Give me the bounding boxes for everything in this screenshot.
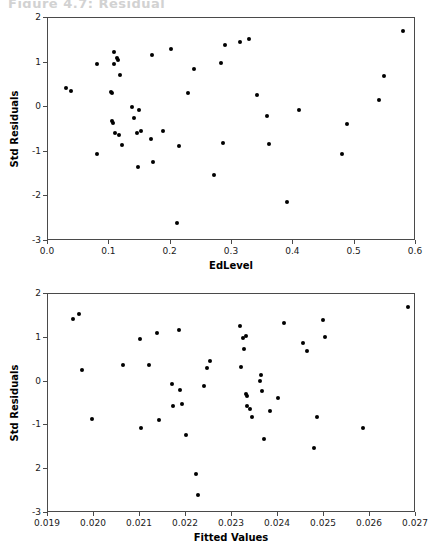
data-point [221, 141, 225, 145]
data-point [361, 426, 365, 430]
data-point [110, 91, 114, 95]
x-tick-top [108, 240, 109, 244]
data-point [305, 349, 309, 353]
data-point [247, 37, 251, 41]
x-tick-label-top: 0.0 [40, 246, 54, 256]
x-tick-label-top: 0.6 [408, 246, 422, 256]
data-point [377, 98, 381, 102]
data-point [117, 133, 121, 137]
plot-area-bottom [47, 293, 415, 512]
data-point [180, 402, 184, 406]
y-tick-label-bottom: -1 [17, 419, 41, 429]
y-tick-top [43, 17, 47, 18]
data-point [95, 152, 99, 156]
data-point [95, 62, 99, 66]
x-tick-bottom [231, 512, 232, 516]
data-point [161, 129, 165, 133]
y-tick-top [43, 151, 47, 152]
data-point [194, 472, 198, 476]
x-tick-bottom [185, 512, 186, 516]
data-point [202, 384, 206, 388]
data-point [219, 61, 223, 65]
data-point [149, 137, 153, 141]
data-point [265, 114, 269, 118]
data-point [340, 152, 344, 156]
data-point [178, 388, 182, 392]
data-point [312, 446, 316, 450]
data-point [177, 328, 181, 332]
y-tick-bottom [43, 381, 47, 382]
data-point [238, 324, 242, 328]
x-tick-label-top: 0.3 [224, 246, 238, 256]
x-tick-label-bottom: 0.025 [310, 518, 336, 528]
data-point [205, 366, 209, 370]
y-tick-top [43, 195, 47, 196]
plot-area-top [47, 17, 415, 240]
data-point [77, 312, 81, 316]
data-point [169, 47, 173, 51]
chart-residuals-vs-fitted: 0.0190.0200.0210.0220.0230.0240.0250.026… [0, 280, 433, 557]
data-point [259, 373, 263, 377]
data-point [239, 365, 243, 369]
data-point [147, 363, 151, 367]
data-point [245, 394, 249, 398]
data-point [267, 142, 271, 146]
y-tick-label-top: 1 [17, 57, 41, 67]
data-point [150, 53, 154, 57]
y-axis-title-top: Std Residuals [9, 90, 20, 167]
data-point [260, 389, 264, 393]
y-tick-bottom [43, 468, 47, 469]
x-tick-label-bottom: 0.023 [218, 518, 244, 528]
x-tick-label-bottom: 0.021 [126, 518, 152, 528]
x-tick-label-top: 0.4 [285, 246, 299, 256]
x-tick-bottom [139, 512, 140, 516]
x-tick-top [170, 240, 171, 244]
data-point [137, 108, 141, 112]
data-point [282, 321, 286, 325]
data-point [69, 89, 73, 93]
data-point [121, 363, 125, 367]
data-point [315, 415, 319, 419]
data-point [238, 40, 242, 44]
data-point [184, 433, 188, 437]
data-point [323, 335, 327, 339]
y-tick-bottom [43, 337, 47, 338]
data-point [276, 396, 280, 400]
x-tick-bottom [415, 512, 416, 516]
x-tick-label-top: 0.2 [162, 246, 176, 256]
y-tick-top [43, 106, 47, 107]
data-point [285, 200, 289, 204]
data-point [262, 437, 266, 441]
data-point [177, 144, 181, 148]
data-point [345, 122, 349, 126]
y-tick-label-top: 0 [17, 101, 41, 111]
y-tick-bottom [43, 512, 47, 513]
data-point [255, 93, 259, 97]
data-point [196, 493, 200, 497]
y-tick-label-bottom: -3 [17, 507, 41, 517]
data-point [138, 337, 142, 341]
chart-residuals-vs-edlevel: 0.00.10.20.30.40.50.6210-1-2-3 EdLevel S… [0, 0, 433, 280]
y-tick-bottom [43, 424, 47, 425]
data-point [212, 173, 216, 177]
data-point [186, 91, 190, 95]
data-point [268, 409, 272, 413]
scatter-points-bottom [48, 294, 414, 511]
x-tick-label-bottom: 0.027 [402, 518, 428, 528]
data-point [382, 74, 386, 78]
y-tick-label-top: 2 [17, 12, 41, 22]
data-point [301, 341, 305, 345]
y-tick-label-top: -3 [17, 235, 41, 245]
data-point [130, 105, 134, 109]
x-tick-bottom [323, 512, 324, 516]
y-tick-label-bottom: 2 [17, 463, 41, 473]
data-point [139, 129, 143, 133]
data-point [208, 359, 212, 363]
data-point [321, 318, 325, 322]
x-axis-title-top: EdLevel [209, 260, 253, 271]
data-point [157, 418, 161, 422]
data-point [192, 67, 196, 71]
data-point [112, 50, 116, 54]
y-tick-top [43, 62, 47, 63]
data-point [170, 382, 174, 386]
